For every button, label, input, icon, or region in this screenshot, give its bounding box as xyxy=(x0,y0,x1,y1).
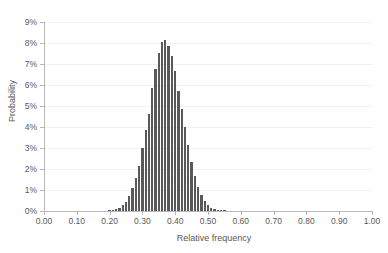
y-tick-mark xyxy=(40,85,44,86)
histogram-bar xyxy=(154,69,156,211)
x-tick-label: 0.90 xyxy=(331,217,348,226)
y-tick-mark xyxy=(40,169,44,170)
x-tick-mark xyxy=(44,211,45,215)
y-tick-label: 8% xyxy=(25,39,37,48)
histogram-bar xyxy=(138,166,140,211)
x-tick-mark xyxy=(142,211,143,215)
histogram-bar xyxy=(200,195,202,211)
histogram-bar xyxy=(151,88,153,211)
x-tick-mark xyxy=(175,211,176,215)
histogram-bar xyxy=(131,188,133,211)
histogram-bar xyxy=(167,46,169,211)
x-tick-mark xyxy=(339,211,340,215)
histogram-chart: Probability 0%1%2%3%4%5%6%7%8%9% 0.000.1… xyxy=(0,0,388,253)
gridline xyxy=(44,106,372,107)
x-tick-mark xyxy=(77,211,78,215)
x-tick-mark xyxy=(274,211,275,215)
x-tick-label: 0.80 xyxy=(298,217,315,226)
y-axis-line xyxy=(44,22,45,212)
y-tick-mark xyxy=(40,148,44,149)
y-tick-label: 4% xyxy=(25,123,37,132)
histogram-bar xyxy=(177,91,179,211)
gridline xyxy=(44,190,372,191)
histogram-bar xyxy=(145,130,147,211)
histogram-bar xyxy=(197,187,199,211)
x-tick-label: 1.00 xyxy=(364,217,381,226)
gridline xyxy=(44,127,372,128)
histogram-bar xyxy=(158,53,160,211)
histogram-bar xyxy=(174,71,176,211)
x-tick-label: 0.40 xyxy=(167,217,184,226)
x-tick-label: 0.00 xyxy=(36,217,53,226)
x-tick-mark xyxy=(110,211,111,215)
y-axis-title: Probability xyxy=(7,51,17,151)
y-tick-mark xyxy=(40,22,44,23)
x-axis-title: Relative frequency xyxy=(0,233,388,243)
histogram-bar xyxy=(161,42,163,211)
x-tick-label: 0.50 xyxy=(200,217,217,226)
y-tick-label: 9% xyxy=(25,18,37,27)
y-tick-label: 3% xyxy=(25,144,37,153)
gridline xyxy=(44,43,372,44)
histogram-bar xyxy=(125,202,127,211)
y-tick-label: 1% xyxy=(25,186,37,195)
gridline xyxy=(44,22,372,23)
y-tick-mark xyxy=(40,43,44,44)
histogram-bar xyxy=(190,162,192,211)
histogram-bar xyxy=(181,109,183,211)
y-tick-label: 5% xyxy=(25,102,37,111)
y-tick-mark xyxy=(40,190,44,191)
x-tick-mark xyxy=(241,211,242,215)
gridline xyxy=(44,169,372,170)
histogram-bar xyxy=(194,176,196,211)
gridline xyxy=(44,85,372,86)
histogram-bar xyxy=(204,201,206,211)
x-tick-label: 0.70 xyxy=(265,217,282,226)
histogram-bar xyxy=(187,145,189,211)
y-tick-mark xyxy=(40,127,44,128)
histogram-bar xyxy=(128,196,130,211)
x-tick-label: 0.10 xyxy=(69,217,86,226)
histogram-bar xyxy=(148,114,150,211)
y-tick-label: 7% xyxy=(25,60,37,69)
y-tick-label: 2% xyxy=(25,165,37,174)
x-tick-label: 0.30 xyxy=(134,217,151,226)
x-tick-label: 0.60 xyxy=(233,217,250,226)
gridline xyxy=(44,64,372,65)
gridline xyxy=(44,148,372,149)
histogram-bar xyxy=(141,148,143,211)
plot-area xyxy=(44,22,372,211)
x-tick-mark xyxy=(306,211,307,215)
histogram-bar xyxy=(135,178,137,211)
y-tick-label: 6% xyxy=(25,81,37,90)
histogram-bar xyxy=(184,127,186,211)
x-tick-mark xyxy=(208,211,209,215)
y-tick-mark xyxy=(40,106,44,107)
x-tick-label: 0.20 xyxy=(101,217,118,226)
histogram-bar xyxy=(164,40,166,211)
y-tick-mark xyxy=(40,64,44,65)
x-tick-mark xyxy=(372,211,373,215)
y-tick-label: 0% xyxy=(25,207,37,216)
histogram-bar xyxy=(171,56,173,211)
